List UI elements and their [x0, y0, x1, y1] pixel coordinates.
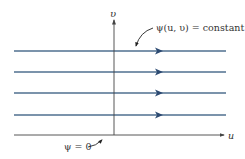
streamlines: [14, 48, 226, 119]
psi-zero-label: ψ = 0: [64, 141, 92, 152]
v-axis-label: υ: [110, 8, 116, 19]
streamline-constant-label: ψ(u, υ) = constant: [156, 22, 244, 33]
streamline: [14, 69, 226, 76]
uniform-flow-diagram: υ u ψ(u, υ) = constant ψ = 0: [0, 0, 245, 159]
u-axis-label: u: [228, 130, 234, 141]
annotation-arrow-icon: [136, 28, 153, 46]
streamline: [14, 48, 226, 55]
streamline: [14, 112, 226, 119]
streamline: [14, 90, 226, 97]
